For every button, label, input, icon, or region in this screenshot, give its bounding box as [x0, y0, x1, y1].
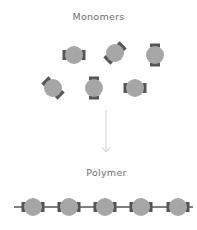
monomer-body: [146, 46, 164, 64]
monomer-body: [126, 79, 144, 97]
monomer: [101, 39, 130, 68]
monomer-body: [24, 198, 42, 216]
monomer: [63, 46, 86, 64]
monomer: [146, 44, 164, 67]
monomer-body: [132, 198, 150, 216]
monomer-body: [40, 75, 65, 100]
monomer-group: [39, 39, 164, 103]
polymer-unit: [22, 198, 45, 216]
polymer-chain: [14, 198, 193, 216]
polymer-unit: [58, 198, 81, 216]
monomer-body: [102, 40, 127, 65]
monomer-body: [65, 46, 83, 64]
monomer-body: [60, 198, 78, 216]
monomer-body: [169, 198, 187, 216]
polymer-unit: [94, 198, 117, 216]
monomer: [124, 79, 147, 97]
down-arrow-icon: [102, 110, 110, 152]
monomer: [85, 77, 103, 100]
monomer: [39, 74, 68, 103]
polymer-unit: [130, 198, 153, 216]
polymerization-diagram: [0, 0, 197, 230]
monomer-body: [96, 198, 114, 216]
polymer-unit: [167, 198, 190, 216]
monomer-body: [85, 79, 103, 97]
